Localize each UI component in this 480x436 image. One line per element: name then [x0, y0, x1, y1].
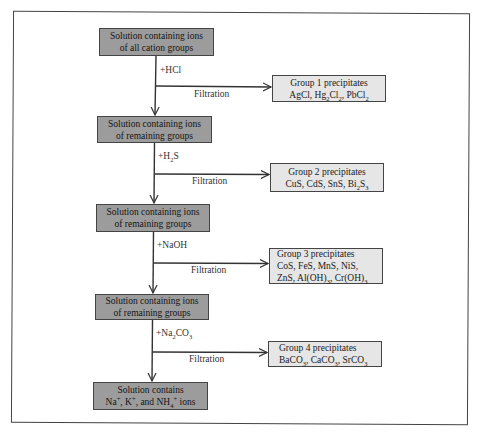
step-text: of remaining groups: [96, 307, 208, 319]
filtration-label: Filtration: [192, 176, 227, 186]
arrow-right-2: [155, 174, 270, 175]
step-box-after-group2: Solution containing ions of remaining gr…: [96, 204, 210, 232]
precipitate-list: BaCO3, CaCO3, SrCO3: [279, 354, 381, 366]
step-box-after-group1: Solution containing ions of remaining gr…: [97, 116, 212, 143]
reagent-label-na2co3: +Na2CO3: [156, 328, 192, 338]
arrow-down-1: [155, 56, 156, 115]
filtration-label: Filtration: [194, 89, 229, 99]
step-text: Solution containing ions: [97, 206, 209, 218]
precipitate-list: ZnS, Al(OH)3, Cr(OH)3: [277, 272, 382, 284]
reagent-label-h2s: +H2S: [158, 151, 179, 161]
step-text: of remaining groups: [97, 218, 209, 230]
step-text: of all cation groups: [100, 42, 213, 54]
reagent-label-hcl: +HCl: [160, 65, 181, 75]
step-text: of remaining groups: [98, 130, 211, 142]
precipitate-box-group1: Group 1 precipitates AgCl, Hg2Cl2, PbCl2: [272, 75, 386, 102]
filtration-label: Filtration: [191, 265, 226, 275]
precipitate-title: Group 3 precipitates: [277, 248, 382, 260]
precipitate-list: AgCl, Hg2Cl2, PbCl2: [273, 89, 385, 101]
step-box-start: Solution containing ions of all cation g…: [99, 28, 214, 56]
step-text: Solution containing ions: [98, 118, 211, 130]
precipitate-list: CuS, CdS, SnS, Bi2S3: [271, 178, 383, 190]
precipitate-title: Group 4 precipitates: [279, 342, 381, 354]
precipitate-title: Group 2 precipitates: [271, 166, 383, 178]
arrow-down-3: [153, 232, 154, 293]
precipitate-title: Group 1 precipitates: [273, 77, 385, 89]
precipitate-list: CoS, FeS, MnS, NiS,: [277, 260, 382, 272]
arrow-right-1: [156, 86, 271, 87]
arrow-down-2: [154, 143, 155, 203]
reagent-label-naoh: +NaOH: [157, 240, 187, 250]
precipitate-box-group3: Group 3 precipitates CoS, FeS, MnS, NiS,…: [269, 248, 383, 284]
step-text: Solution contains: [94, 384, 207, 396]
precipitate-box-group4: Group 4 precipitates BaCO3, CaCO3, SrCO3: [268, 341, 382, 367]
arrow-down-4: [152, 320, 153, 381]
arrow-right-4: [153, 352, 268, 353]
step-box-after-group3: Solution containing ions of remaining gr…: [95, 294, 209, 320]
precipitate-box-group2: Group 2 precipitates CuS, CdS, SnS, Bi2S…: [270, 163, 384, 192]
connector-lines: [0, 0, 480, 436]
filtration-label: Filtration: [189, 354, 224, 364]
arrow-right-3: [154, 263, 269, 264]
step-text: Solution containing ions: [100, 30, 213, 42]
step-text: Solution containing ions: [96, 295, 208, 307]
step-text: Na+, K+, and NH4+ ions: [94, 396, 207, 408]
step-box-final: Solution contains Na+, K+, and NH4+ ions: [93, 382, 208, 410]
